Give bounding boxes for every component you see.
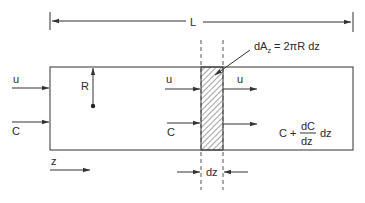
radius-label: R — [81, 80, 89, 92]
area-annotation: dAz = 2πR dz — [215, 40, 320, 75]
thickness-label: dz — [206, 166, 218, 178]
outflow-dz: dz — [320, 127, 332, 139]
element-out-velocity-label: u — [237, 73, 243, 85]
outflow-concentration-expression: C + dC dz dz — [279, 120, 332, 147]
inlet-velocity-label: u — [13, 73, 19, 85]
derivative-numerator: dC — [301, 120, 315, 132]
inlet-flow: u C — [12, 73, 49, 137]
thickness-dimension: dz — [177, 166, 248, 178]
element-inflow: u C — [165, 73, 200, 138]
outflow-c-plus: C + — [279, 127, 296, 139]
area-leader-arrow — [215, 50, 250, 75]
reactor-diagram: L dAz = 2πR dz u C R u C u C + dC — [0, 0, 365, 203]
radius-indicator: R — [81, 68, 95, 108]
derivative-denominator: dz — [301, 135, 313, 147]
center-point — [91, 104, 95, 108]
inlet-concentration-label: C — [12, 125, 20, 137]
element-in-concentration-label: C — [167, 126, 175, 138]
differential-element — [201, 67, 223, 150]
length-label: L — [190, 16, 196, 28]
length-dimension: L — [50, 12, 353, 32]
axis-label: z — [51, 155, 57, 167]
area-label: dAz = 2πR dz — [254, 40, 320, 54]
element-outflow: u C + dC dz dz — [223, 73, 332, 147]
element-in-velocity-label: u — [166, 73, 172, 85]
axis-indicator: z — [50, 155, 90, 170]
